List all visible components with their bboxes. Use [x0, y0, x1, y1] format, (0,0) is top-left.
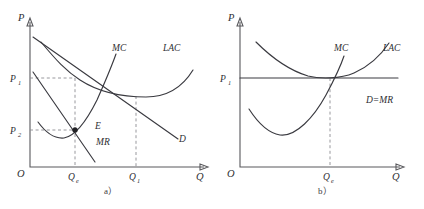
panel-a-tick-q1: Q 1	[129, 172, 140, 184]
panel-b-origin-label: O	[227, 168, 235, 179]
panel-a-demand-label: D	[178, 134, 186, 144]
panel-a-x-axis-label: Q	[196, 171, 204, 182]
panel-a-tick-qe-base: Q	[68, 172, 75, 182]
panel-a-tick-q1-base: Q	[129, 172, 136, 182]
panel-a-mr-label: MR	[95, 137, 110, 147]
panel-b-tick-qe: Q e	[323, 172, 334, 184]
panel-a-tick-p2-base: P	[9, 126, 16, 136]
panel-a-equilibrium-point	[73, 128, 78, 133]
panel-a-tick-p2-sub: 2	[18, 131, 22, 138]
figure-svg: P Q O P 1 P 2 Q e Q 1 MC LAC D MR E a）	[0, 0, 424, 209]
panel-a-mc-label: MC	[111, 43, 127, 53]
panel-b-tick-qe-base: Q	[323, 172, 330, 182]
panel-b-y-axis-label: P	[227, 12, 235, 23]
panel-b: P Q O P 1 Q e MC LAC D=MR b）	[219, 12, 404, 196]
panel-b-tick-qe-sub: e	[331, 177, 334, 184]
panel-b-caption: b）	[318, 186, 332, 196]
panel-a-mr-curve	[33, 72, 95, 162]
panel-b-tick-p1-base: P	[219, 74, 226, 84]
panel-a-origin-label: O	[17, 168, 25, 179]
panel-b-lac-label: LAC	[382, 43, 401, 53]
panel-a-tick-p2: P 2	[9, 126, 22, 138]
panel-a-e-label: E	[94, 121, 101, 131]
panel-b-tick-p1: P 1	[219, 74, 231, 86]
panel-a-caption: a）	[104, 186, 117, 196]
panel-a-tick-p1: P 1	[9, 74, 21, 86]
panel-b-lac-curve	[256, 42, 389, 78]
panel-a-y-axis-label: P	[17, 12, 25, 23]
panel-b-x-axis-label: Q	[392, 171, 400, 182]
panel-b-mc-label: MC	[333, 43, 349, 53]
panel-b-demand-mr-label: D=MR	[365, 95, 393, 105]
panel-a-tick-q1-sub: 1	[137, 177, 140, 184]
panel-a-demand-curve	[33, 37, 178, 139]
panel-a-lac-label: LAC	[162, 43, 181, 53]
panel-b-tick-p1-sub: 1	[228, 79, 231, 86]
panel-a-tick-p1-base: P	[9, 74, 16, 84]
economics-figure: P Q O P 1 P 2 Q e Q 1 MC LAC D MR E a）	[0, 0, 424, 209]
panel-a-tick-qe-sub: e	[76, 177, 79, 184]
panel-a-tick-qe: Q e	[68, 172, 79, 184]
panel-a: P Q O P 1 P 2 Q e Q 1 MC LAC D MR E a）	[9, 12, 208, 196]
panel-a-tick-p1-sub: 1	[18, 79, 21, 86]
